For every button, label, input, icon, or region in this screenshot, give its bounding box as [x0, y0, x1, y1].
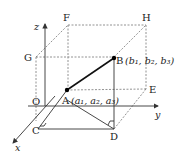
label-a-coords: (a₁, a₂, a₃) — [71, 95, 119, 106]
origin-label: O — [32, 96, 40, 107]
label-h: H — [142, 12, 151, 23]
segment-ab — [67, 58, 114, 90]
label-e: E — [149, 84, 156, 95]
point-a — [65, 88, 69, 92]
label-b-coords: (b₁, b₂, b₃) — [125, 55, 174, 66]
label-f: F — [63, 12, 70, 23]
label-a: A — [61, 95, 70, 106]
x-axis-label: x — [15, 142, 21, 153]
box-dashed-edges — [36, 25, 146, 129]
z-axis-label: z — [33, 21, 40, 32]
label-g: G — [24, 52, 32, 63]
label-c: C — [32, 125, 40, 136]
label-d: D — [110, 131, 118, 142]
coordinate-box-diagram: z y x O F G H E D C B (b₁, b₂, b₃) A (a₁… — [0, 0, 179, 154]
box-solid-edges — [38, 58, 114, 129]
y-axis-label: y — [154, 109, 161, 120]
label-b: B — [116, 55, 123, 66]
